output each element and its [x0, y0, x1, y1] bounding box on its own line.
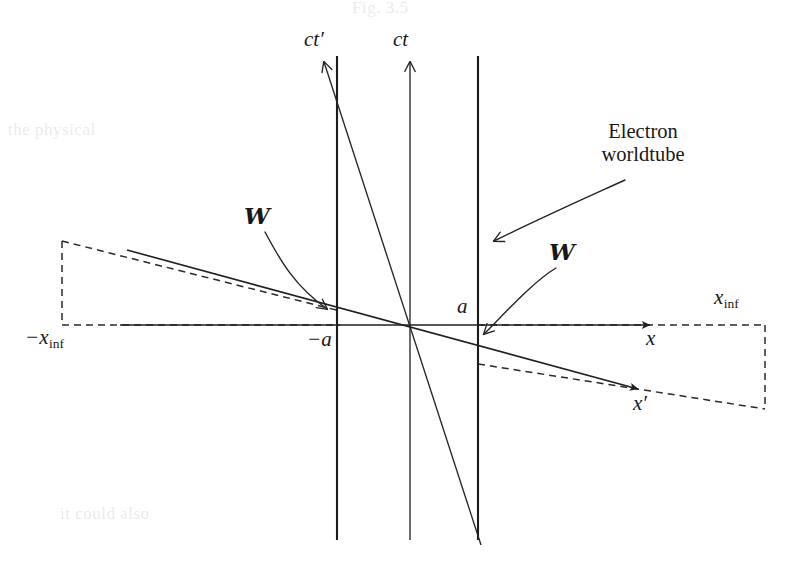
x-inf-sub-left: inf — [49, 336, 64, 351]
x-axis-label: x — [646, 327, 655, 350]
x-prime-axis-label: x′ — [633, 392, 647, 415]
marker-pos-a: a — [457, 295, 468, 318]
ct-prime-base: ct — [304, 27, 319, 51]
x-prime-axis-dashed-extension-left — [62, 241, 340, 311]
x-prime-axis-dashed-extension-right — [478, 364, 765, 409]
script-w-left-curve — [265, 232, 327, 309]
spacetime-diagram-canvas — [0, 0, 797, 562]
electron-worldtube-callout-label: Electron worldtube — [558, 120, 728, 166]
script-w-left-label: W — [244, 204, 269, 229]
x-prime-axis-group — [127, 250, 638, 389]
script-w-right-label: W — [549, 240, 574, 265]
ct-prime-mark: ′ — [319, 27, 324, 51]
script-w-left-callout-arrow — [265, 232, 327, 309]
x-inf-base-left: x — [39, 325, 48, 349]
worldtube-label-line1: Electron — [558, 120, 728, 143]
marker-pos-x-inf: xinf — [714, 286, 738, 309]
ct-prime-axis-label: ct′ — [304, 28, 324, 51]
ghost-text-top: Fig. 3.5 — [352, 0, 408, 18]
ghost-text-left: the physical — [8, 120, 96, 140]
worldtube-label-line2: worldtube — [558, 143, 728, 166]
script-w-right-callout-arrow — [484, 268, 556, 334]
right-wedge-dashed-region — [478, 325, 765, 409]
ghost-text-bottom: it could also — [60, 504, 150, 524]
marker-neg-a: −a — [307, 328, 332, 351]
ct-axis-label: ct — [393, 28, 408, 51]
neg-sign: − — [25, 325, 39, 349]
figure-root: ct′ ct x x′ −a a −xinf xinf Electron wor… — [0, 0, 797, 562]
script-w-right-curve — [484, 268, 556, 334]
electron-worldtube-callout-arrow — [494, 180, 625, 241]
x-inf-base-right: x — [714, 285, 723, 309]
x-prime-base: x — [633, 391, 642, 415]
marker-neg-x-inf: −xinf — [25, 326, 64, 349]
x-prime-mark: ′ — [642, 391, 647, 415]
x-prime-axis-line — [127, 250, 638, 389]
x-inf-sub-right: inf — [724, 296, 739, 311]
worldtube-callout-curve — [494, 180, 625, 241]
